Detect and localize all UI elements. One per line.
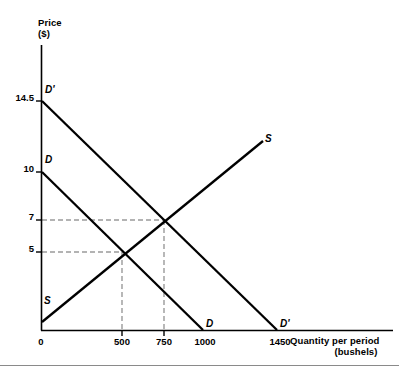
y-tick-label-14-5: 14.5 — [0, 93, 34, 104]
curve-label-demand-prime-top: D' — [45, 84, 55, 96]
x-tick-label-0: 0 — [21, 337, 61, 348]
curve-label-demand-bottom: D — [206, 318, 213, 330]
axis-ticks — [36, 101, 164, 336]
x-tick-label-1450: 1450 — [260, 337, 300, 348]
curve-label-demand-top: D — [45, 154, 52, 166]
x-axis-title-line1: Quantity per period — [290, 335, 380, 346]
curve-label-demand-prime-bottom: D' — [280, 318, 290, 330]
y-tick-label-10: 10 — [0, 164, 34, 175]
supply-demand-figure: Price($) Quantity per period(bushels) 14… — [0, 0, 399, 373]
x-tick-label-500: 500 — [102, 337, 142, 348]
y-axis-title: Price($) — [38, 18, 62, 40]
x-tick-label-750: 750 — [144, 337, 184, 348]
curve-label-supply-top: S — [265, 133, 272, 145]
supply-curve-S — [42, 141, 263, 322]
y-tick-label-7: 7 — [0, 212, 34, 223]
y-tick-label-5: 5 — [0, 244, 34, 255]
y-axis-title-line2: ($) — [38, 28, 50, 39]
y-axis-title-line1: Price — [38, 17, 62, 28]
x-axis-title: Quantity per period(bushels) — [290, 336, 380, 358]
x-tick-label-1000: 1000 — [185, 337, 225, 348]
curve-label-supply-bottom: S — [44, 295, 51, 307]
curves — [42, 101, 277, 330]
chart-canvas — [0, 0, 399, 373]
demand-curve-D — [42, 172, 203, 330]
footer-divider — [0, 365, 399, 366]
x-axis-title-line2: (bushels) — [290, 347, 380, 358]
demand-curve-D-prime — [42, 101, 277, 330]
axes — [41, 45, 393, 331]
